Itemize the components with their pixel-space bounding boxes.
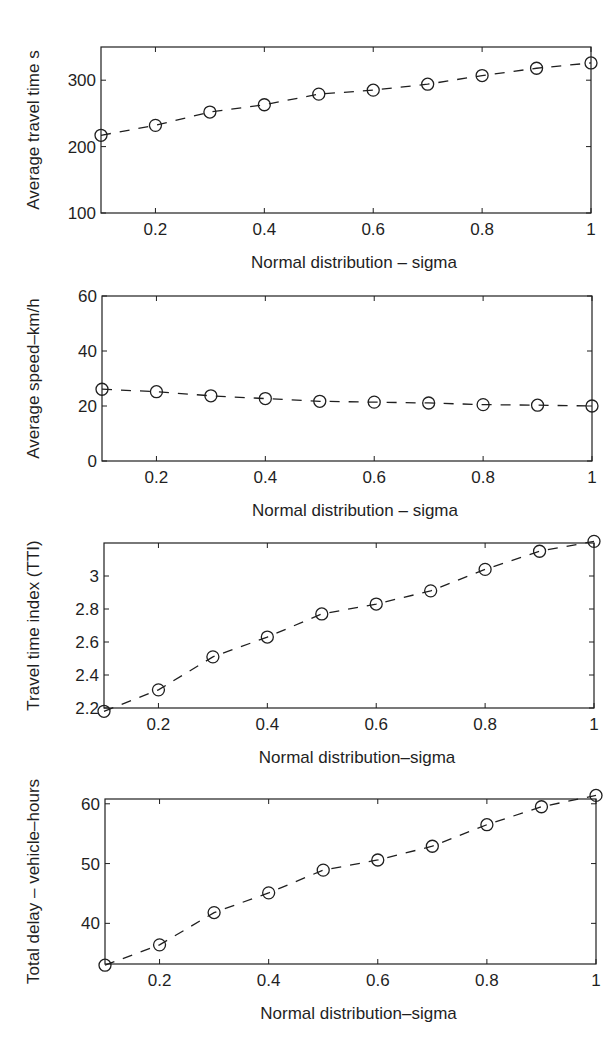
data-point-marker: [534, 545, 546, 557]
x-tick-label: 0.2: [147, 715, 171, 734]
figure-canvas: 0.20.40.60.81100200300Normal distributio…: [0, 0, 615, 1046]
y-tick-label: 50: [81, 855, 100, 874]
x-axis-label: Normal distribution – sigma: [251, 253, 458, 272]
x-tick-label: 0.2: [144, 220, 168, 239]
data-point-marker: [481, 819, 493, 831]
y-axis-label: Travel time index (TTI): [24, 540, 43, 710]
subplot-average-travel-time: 0.20.40.60.81100200300Normal distributio…: [24, 47, 597, 272]
y-tick-label: 100: [68, 204, 96, 223]
data-point-marker: [479, 563, 491, 575]
subplot-average-speed: 0.20.40.60.810204060Normal distribution …: [24, 287, 598, 520]
x-tick-label: 0.6: [362, 468, 386, 487]
y-tick-label: 2.8: [75, 600, 99, 619]
x-tick-label: 0.8: [475, 971, 499, 990]
x-axis-label: Normal distribution – sigma: [252, 501, 459, 520]
x-tick-label: 0.2: [148, 971, 172, 990]
y-tick-label: 2.6: [75, 633, 99, 652]
x-tick-label: 0.6: [361, 220, 385, 239]
y-tick-label: 60: [81, 795, 100, 814]
y-tick-label: 3: [90, 567, 99, 586]
x-tick-label: 1: [587, 468, 596, 487]
x-tick-label: 1: [591, 971, 600, 990]
y-axis-label: Average travel time s: [24, 50, 43, 209]
y-tick-label: 0: [88, 452, 97, 471]
x-tick-label: 0.6: [364, 715, 388, 734]
x-tick-label: 0.4: [254, 468, 278, 487]
data-point-marker: [317, 864, 329, 876]
y-tick-label: 60: [78, 287, 97, 306]
data-point-marker: [316, 608, 328, 620]
data-point-marker: [313, 88, 325, 100]
x-tick-label: 0.8: [473, 715, 497, 734]
x-axis-label: Normal distribution–sigma: [259, 748, 456, 767]
y-tick-label: 300: [68, 71, 96, 90]
y-tick-label: 2.2: [75, 699, 99, 718]
data-line: [101, 63, 591, 135]
y-tick-label: 40: [78, 342, 97, 361]
y-axis-label: Total delay – vehicle–hours: [24, 779, 43, 984]
x-tick-label: 0.2: [145, 468, 169, 487]
figure: 0.20.40.60.81100200300Normal distributio…: [0, 0, 615, 1046]
data-line: [102, 389, 592, 406]
subplot-total-delay: 0.20.40.60.81405060Normal distribution–s…: [24, 779, 602, 1023]
subplot-travel-time-index: 0.20.40.60.812.22.42.62.83Normal distrib…: [24, 535, 600, 767]
x-tick-label: 1: [589, 715, 598, 734]
data-point-marker: [149, 119, 161, 131]
x-tick-label: 0.8: [470, 220, 494, 239]
y-tick-label: 20: [78, 397, 97, 416]
data-point-marker: [535, 801, 547, 813]
data-point-marker: [258, 99, 270, 111]
x-tick-label: 0.4: [257, 971, 281, 990]
x-tick-label: 0.8: [471, 468, 495, 487]
x-tick-label: 1: [586, 220, 595, 239]
y-tick-label: 200: [68, 138, 96, 157]
data-line: [104, 541, 594, 711]
y-tick-label: 40: [81, 914, 100, 933]
x-tick-label: 0.4: [256, 715, 280, 734]
y-tick-label: 2.4: [75, 666, 99, 685]
axes-box: [101, 47, 591, 213]
x-tick-label: 0.6: [366, 971, 390, 990]
x-tick-label: 0.4: [253, 220, 277, 239]
data-line: [105, 795, 596, 965]
x-axis-label: Normal distribution–sigma: [260, 1004, 457, 1023]
axes-box: [102, 296, 592, 461]
y-axis-label: Average speed–km/h: [24, 298, 43, 458]
axes-box: [105, 799, 596, 964]
axes-box: [104, 543, 594, 708]
